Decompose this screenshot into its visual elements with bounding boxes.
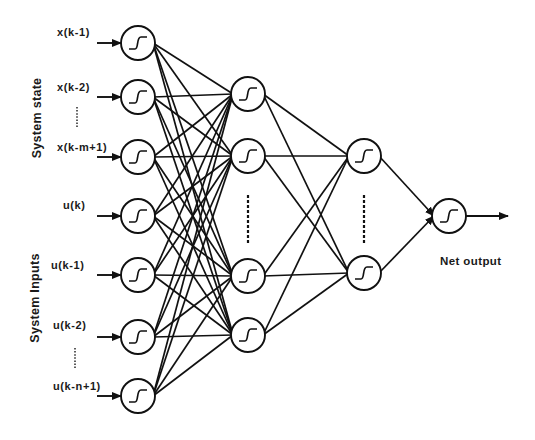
input-arrows [97, 43, 121, 396]
neural-network-diagram: System state System Inputs x(k-1) x(k-2)… [0, 0, 535, 440]
output-label: Net output [440, 255, 501, 267]
input-node [121, 26, 155, 60]
connection-edge [153, 275, 233, 335]
hidden-2-node [347, 139, 381, 173]
input-label: x(k-2) [57, 81, 90, 93]
input-node [121, 320, 155, 354]
connection-edge [263, 273, 349, 276]
input-node [121, 199, 155, 233]
group-label-system-inputs: System Inputs [28, 253, 42, 342]
input-node [121, 80, 155, 114]
input-label: x(k-1) [57, 26, 90, 38]
input-node [121, 258, 155, 292]
connection-edge [153, 43, 233, 276]
input-label: x(k-m+1) [57, 141, 107, 153]
input-node [121, 140, 155, 174]
hidden-1-node [231, 77, 265, 111]
connection-edge [379, 216, 434, 273]
nodes [121, 26, 466, 413]
connection-edge [379, 156, 434, 216]
input-label: u(k-2) [53, 319, 87, 331]
output-node [432, 199, 466, 233]
input-label: u(k-n+1) [53, 380, 101, 392]
hidden-1-node [231, 139, 265, 173]
input-label: u(k) [63, 199, 86, 211]
connection-edge [153, 94, 233, 97]
connection-edge [153, 94, 233, 216]
connection-edge [263, 273, 349, 335]
input-node [121, 379, 155, 413]
connections [153, 43, 434, 396]
hidden-2-node [347, 256, 381, 290]
connection-edge [263, 94, 349, 156]
connection-edge [153, 335, 233, 396]
hidden-1-node [231, 259, 265, 293]
group-label-system-state: System state [30, 78, 44, 159]
input-label: u(k-1) [51, 259, 85, 271]
connection-edge [153, 94, 233, 396]
hidden-1-node [231, 318, 265, 352]
